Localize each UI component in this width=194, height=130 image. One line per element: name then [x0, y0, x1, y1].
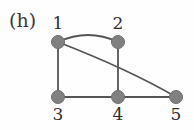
- graph-node-3: [52, 91, 65, 104]
- graph-canvas: [0, 0, 194, 130]
- vertex-label-2: 2: [109, 15, 127, 32]
- vertex-label-4: 4: [109, 106, 127, 123]
- node-layer: [52, 36, 183, 104]
- graph-node-2: [112, 36, 125, 49]
- vertex-label-5: 5: [167, 106, 185, 123]
- vertex-label-1: 1: [49, 15, 67, 32]
- graph-edge-1-5: [58, 42, 176, 97]
- graph-node-1: [52, 36, 65, 49]
- graph-node-5: [170, 91, 183, 104]
- graph-node-4: [112, 91, 125, 104]
- graph-edge-1-2: [58, 35, 118, 42]
- graph-figure: (h) 12345: [0, 0, 194, 130]
- vertex-label-3: 3: [49, 106, 67, 123]
